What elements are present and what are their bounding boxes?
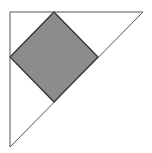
right-triangle (10, 12, 143, 147)
inscribed-square (10, 12, 98, 102)
geometry-diagram (0, 0, 152, 153)
